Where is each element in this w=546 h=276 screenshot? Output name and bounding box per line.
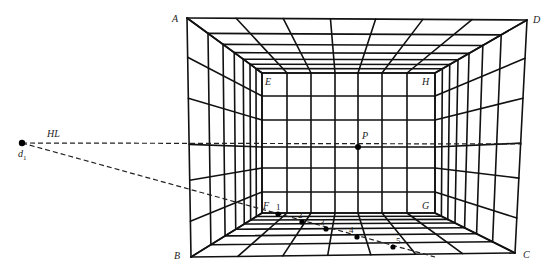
horizon-line (22, 143, 522, 144)
label-d1-sub: 1 (23, 154, 27, 162)
label-G: G (422, 200, 429, 211)
floor-point-5-dot (390, 244, 395, 249)
left-wall-transversal (243, 59, 244, 224)
label-H: H (421, 76, 430, 87)
floor-label-4: 4 (349, 225, 354, 235)
vanishing-point-p-dot (355, 144, 361, 150)
ceiling-transversal (223, 44, 483, 45)
floor-transversal (251, 219, 448, 220)
floor-label-2: 2 (298, 210, 303, 220)
floor-point-4-dot (354, 234, 359, 239)
floor-label-3: 3 (320, 217, 325, 227)
label-d1: d1 (18, 148, 27, 162)
label-B: B (174, 250, 180, 261)
right-wall-transversal (441, 69, 442, 216)
ceiling-transversal (243, 59, 458, 60)
label-P: P (361, 130, 368, 141)
measuring-point-d1-dot (19, 140, 25, 146)
measuring-diagonal-line (22, 143, 435, 257)
right-wall-receding-line (435, 98, 523, 120)
perspective-room-diagram: A D B C E H F G P HL d1 1 2 3 4 5 (0, 0, 546, 276)
label-F: F (262, 200, 270, 211)
left-wall-transversal (250, 64, 251, 220)
label-C: C (523, 249, 530, 260)
right-wall-transversal (515, 20, 527, 253)
ceiling-transversal (234, 53, 469, 54)
floor-label-5: 5 (396, 236, 401, 246)
label-D: D (532, 14, 541, 25)
floor-point-3-dot (323, 226, 328, 231)
right-wall-transversal (493, 35, 502, 242)
floor-transversal (244, 223, 455, 224)
label-HL: HL (46, 128, 60, 139)
left-wall-transversal (187, 18, 191, 257)
label-A: A (171, 13, 179, 24)
floor-label-1: 1 (276, 202, 281, 212)
room-grid (187, 18, 527, 257)
label-E: E (264, 76, 271, 87)
floor-point-2-dot (299, 219, 304, 224)
floor-point-1-dot (275, 211, 280, 216)
